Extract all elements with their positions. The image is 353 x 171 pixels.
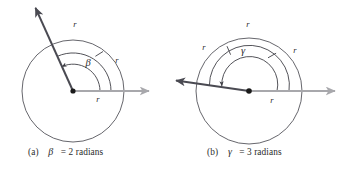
panel-a-caption-rest: = 2 radians — [61, 147, 104, 157]
panel-a-label-r-arc-top: r — [73, 19, 77, 29]
panel-a-caption-symbol: β — [48, 146, 53, 157]
panel-a-caption-tag: (a) — [28, 147, 39, 157]
panel-b-caption-rest: = 3 radians — [239, 147, 282, 157]
panel-b-label-r-arc-left: r — [202, 42, 206, 52]
panel-b-label-r-horizontal: r — [270, 95, 274, 105]
panel-b-angle-sweep-arc — [222, 57, 278, 91]
panel-b-tick-1 — [268, 53, 276, 58]
panel-a-group: r r r β — [22, 8, 149, 142]
panel-a-terminal-ray — [36, 8, 74, 91]
panel-b-label-r-arc-right: r — [293, 45, 297, 55]
radian-angle-figure: r r r β r r r r — [0, 0, 353, 171]
panel-b-label-r-arc-top: r — [246, 19, 250, 29]
panel-a-label-r-horizontal: r — [96, 94, 100, 104]
panel-a-label-r-arc-right: r — [115, 55, 119, 65]
panel-b-terminal-ray — [176, 81, 249, 91]
panel-a-caption: (a) β = 2 radians — [28, 146, 103, 157]
panel-b-vertex-dot — [246, 88, 252, 94]
panel-b-label-gamma: γ — [241, 45, 246, 56]
panel-b-caption-tag: (b) — [207, 147, 218, 157]
panel-b-caption: (b) γ = 3 radians — [207, 146, 282, 157]
panel-a-label-beta: β — [84, 57, 91, 68]
panel-b-group: r r r r γ — [176, 19, 335, 144]
panel-a-tick-1 — [95, 52, 103, 57]
panel-a-vertex-dot — [70, 88, 75, 93]
panel-b-caption-symbol: γ — [228, 146, 232, 157]
